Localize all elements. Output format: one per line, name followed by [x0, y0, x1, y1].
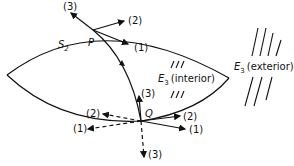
point-p-label: P: [88, 37, 95, 48]
q-ray-3-dashed: [141, 121, 144, 157]
p-ray-2-label: (2): [128, 15, 142, 26]
p-ray-1: [93, 30, 128, 44]
q-ray-2-dashed-label: (2): [86, 108, 100, 119]
p-ray-3-label: (3): [63, 1, 77, 12]
q-ray-3-solid-label: (3): [141, 88, 155, 99]
point-q-label: Q: [145, 108, 153, 119]
q-ray-1-solid-label: (1): [189, 124, 203, 135]
q-ray-2-solid-label: (2): [183, 111, 197, 122]
q-ray-3-dashed-label: (3): [148, 149, 162, 160]
interior-region-label: E3(interior): [158, 73, 215, 87]
q-ray-1-dashed-label: (1): [73, 123, 87, 134]
surface-label: S2: [58, 39, 69, 53]
exterior-region-label: E3(exterior): [234, 61, 294, 75]
lens-diagram: (3) (2) (1) P S2 Q (3) (2) (1) (2) (1) (…: [0, 0, 294, 166]
p-ray-2: [93, 21, 124, 30]
p-ray-3: [71, 13, 93, 30]
q-ray-1-dashed: [88, 121, 141, 129]
p-ray-1-label: (1): [134, 42, 148, 53]
q-ray-1-solid: [141, 121, 185, 129]
